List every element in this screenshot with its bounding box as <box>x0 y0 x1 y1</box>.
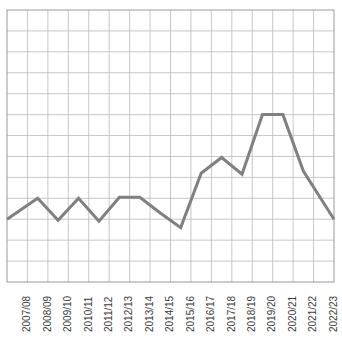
line-chart: 2007/082008/092009/102010/112011/122012/… <box>0 0 342 339</box>
grid-lines <box>7 10 334 282</box>
chart-plot-area <box>0 0 342 339</box>
